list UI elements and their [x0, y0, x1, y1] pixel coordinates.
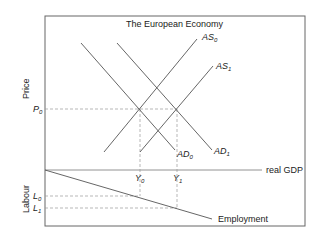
- l0-label: L0: [33, 191, 42, 202]
- labour-axis-label: Labour: [21, 185, 31, 213]
- l1-label: L1: [33, 203, 41, 214]
- diagram-title: The European Economy: [126, 19, 224, 29]
- diagram-frame: [45, 16, 305, 226]
- real-gdp-label: real GDP: [266, 165, 303, 175]
- as0-label: AS0: [201, 32, 218, 43]
- european-economy-diagram: The European Economy real GDP Price Labo…: [0, 0, 321, 244]
- y1-label: Y1: [173, 173, 182, 184]
- as1-label: AS1: [215, 61, 231, 72]
- p0-label: P0: [33, 104, 43, 115]
- ad1-curve: [117, 43, 212, 150]
- ad0-label: AD0: [176, 149, 194, 160]
- price-axis-label: Price: [21, 78, 31, 99]
- ad0-curve: [81, 43, 175, 150]
- y0-label: Y0: [135, 173, 145, 184]
- employment-curve: [45, 170, 212, 219]
- as0-curve: [104, 39, 197, 152]
- employment-label: Employment: [218, 214, 269, 224]
- ad1-label: AD1: [213, 146, 230, 157]
